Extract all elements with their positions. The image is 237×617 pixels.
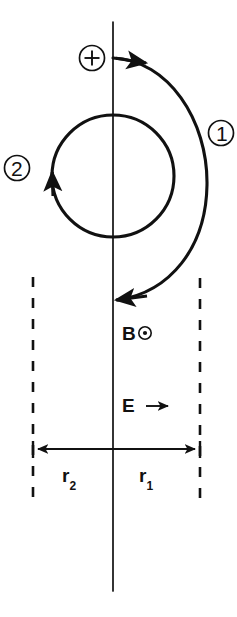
trajectory-two-direction-arrow: [52, 172, 53, 196]
trajectory-two-label: 2: [11, 158, 23, 179]
radius-two-label: r2: [62, 466, 76, 489]
b-field-out-of-page-dot: [143, 331, 147, 335]
radius-two-subscript: 2: [69, 479, 76, 493]
trajectory-one-numeral: 1: [216, 122, 228, 145]
radius-one-label: r1: [139, 466, 153, 489]
trajectory-one-label: 1: [216, 123, 228, 144]
trajectory-one-arc: [113, 58, 207, 300]
figure-vector-canvas: [0, 0, 237, 617]
physics-figure: 1 2 B E r2 r1: [0, 0, 237, 617]
electric-field-label: E: [122, 396, 135, 415]
electric-field-symbol: E: [122, 395, 135, 416]
magnetic-field-symbol: B: [122, 323, 136, 344]
trajectory-one-end-arrow: [116, 296, 147, 300]
trajectory-two-numeral: 2: [11, 157, 23, 180]
radius-one-subscript: 1: [146, 479, 153, 493]
magnetic-field-label: B: [122, 324, 136, 343]
